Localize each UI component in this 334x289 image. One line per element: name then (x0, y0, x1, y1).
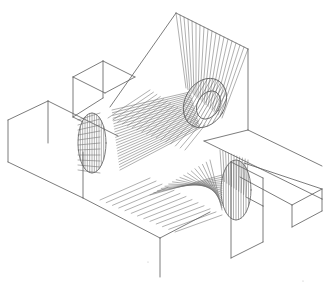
wireframe-drawing (0, 0, 334, 289)
hatch-line (150, 175, 222, 195)
hatch-line (246, 160, 248, 196)
edge-line (73, 77, 105, 93)
fan-bottom-right (150, 160, 222, 210)
hatch-line (118, 120, 198, 157)
hatch-line (156, 206, 204, 224)
hatch-line (222, 49, 248, 118)
hatch-line (239, 157, 240, 191)
wireframe-figure (0, 0, 334, 289)
hatch-line (106, 181, 156, 203)
edge-line (83, 198, 160, 238)
hatch-line (210, 160, 222, 210)
edge-line (110, 13, 176, 107)
hatch-line (188, 19, 192, 93)
hatch-lines (78, 13, 248, 232)
hatch-line (114, 102, 193, 127)
edge-line (248, 130, 322, 166)
hatch-line (200, 27, 204, 100)
box-bottom-mid (83, 152, 210, 277)
hatch-line (125, 190, 174, 210)
hatch-line (138, 197, 187, 217)
cylinder-hatch (207, 93, 226, 127)
hatch-line (131, 193, 180, 213)
hatch-line (119, 187, 168, 208)
hatch-line (192, 21, 194, 95)
fan-bottom-arc (220, 150, 248, 196)
cylinder-top (175, 70, 236, 135)
hatch-line (202, 29, 208, 101)
edge-line (8, 162, 83, 198)
fan-center (112, 92, 200, 170)
edge-line (103, 61, 135, 77)
cylinder-left (78, 113, 106, 173)
edge-line (8, 101, 48, 120)
hatch-line (144, 200, 192, 219)
fan-top (176, 13, 248, 118)
hatch-line (113, 184, 163, 205)
speck (302, 280, 303, 281)
specks (147, 261, 303, 281)
edge-line (231, 242, 263, 258)
edge-line (73, 61, 103, 77)
hatch-line (218, 45, 240, 115)
cylinder-hatch (187, 78, 212, 120)
edge-line (105, 77, 135, 93)
edge-line (48, 101, 118, 136)
edge-line (240, 177, 292, 205)
edge-line (176, 13, 248, 49)
edge-line (292, 211, 322, 227)
speck (147, 261, 148, 262)
hatch-line (241, 158, 242, 193)
box-edges (8, 13, 322, 277)
edge-line (204, 130, 248, 141)
hatch-line (100, 178, 150, 200)
hatch-line (150, 203, 198, 222)
hatch-line (169, 212, 216, 229)
box-top-left (73, 61, 135, 122)
hatch-line (132, 101, 167, 128)
hatch-line (214, 41, 232, 111)
